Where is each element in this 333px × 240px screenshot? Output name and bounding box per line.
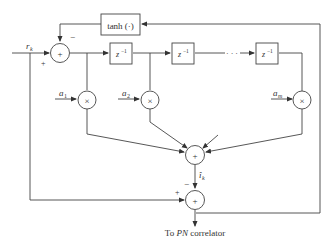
tanh-to-sum-line <box>60 24 101 41</box>
mult2-to-adder-line <box>150 109 187 148</box>
tap-adder: + <box>186 146 205 165</box>
input-bypass-line <box>30 53 184 200</box>
svg-text:−1: −1 <box>183 48 189 54</box>
multiplier-2: × <box>141 91 159 109</box>
delay-block-1: z −1 <box>110 43 132 64</box>
coefficient-a1: a 1 <box>59 88 67 99</box>
extra-tap-line <box>203 135 218 148</box>
output-sum-plus: + <box>175 188 180 197</box>
svg-text:k: k <box>30 46 33 52</box>
delay-block-m: z −1 <box>256 43 278 64</box>
output-label: To PN correlator <box>165 228 225 238</box>
input-sum-minus: − <box>70 32 75 42</box>
coefficient-am: a m <box>273 88 283 99</box>
multm-to-adder-line <box>206 109 302 152</box>
input-summer: + <box>51 44 70 63</box>
mult1-to-adder-line <box>87 109 184 152</box>
svg-text:−1: −1 <box>267 48 273 54</box>
svg-text:2: 2 <box>127 93 130 99</box>
svg-text:×: × <box>147 96 152 106</box>
svg-text:m: m <box>278 93 283 99</box>
input-sum-plus: + <box>41 59 46 68</box>
tanh-block: tanh (·) <box>101 14 140 35</box>
delay-block-2: z −1 <box>172 43 194 64</box>
svg-text:×: × <box>299 96 304 106</box>
input-label: r k <box>26 41 33 52</box>
estimate-label: î k <box>199 170 205 181</box>
multiplier-1: × <box>78 91 96 109</box>
coefficient-a2: a 2 <box>122 88 130 99</box>
svg-text:×: × <box>84 96 89 106</box>
svg-text:tanh (·): tanh (·) <box>107 21 134 31</box>
svg-text:+: + <box>192 196 197 206</box>
tapm-line <box>279 53 302 91</box>
output-summer: + <box>186 191 205 210</box>
svg-text:k: k <box>202 175 205 181</box>
svg-text:−1: −1 <box>121 48 127 54</box>
svg-text:1: 1 <box>64 93 67 99</box>
multiplier-m: × <box>293 91 311 109</box>
output-sum-minus: − <box>184 179 189 189</box>
ellipsis: · · · <box>226 49 238 58</box>
svg-text:+: + <box>57 49 62 59</box>
block-diagram: tanh (·) z −1 z −1 z −1 · · · + − + r k … <box>0 0 333 240</box>
svg-text:+: + <box>192 151 197 161</box>
